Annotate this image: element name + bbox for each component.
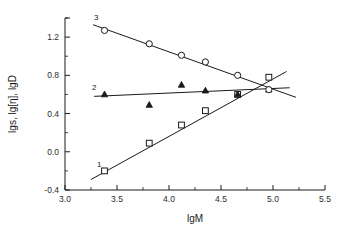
y-tick-label: 1.2: [47, 32, 59, 42]
data-point-square: [102, 168, 108, 174]
data-point-circle: [101, 27, 107, 33]
y-tick-label: 0.8: [47, 70, 59, 80]
data-point-circle: [178, 52, 184, 58]
data-point-triangle: [146, 102, 152, 108]
y-tick-label: 0.4: [47, 109, 59, 119]
data-point-circle: [146, 41, 152, 47]
curve-label-3: 3: [94, 13, 99, 22]
data-point-circle: [202, 59, 208, 65]
curve-label-2: 2: [92, 83, 97, 92]
data-point-triangle: [101, 91, 107, 97]
y-tick-label: -0.4: [44, 185, 59, 195]
data-point-circle: [235, 72, 241, 78]
data-point-circle: [266, 87, 272, 93]
fit-line-1: [91, 72, 287, 180]
curve-label-1: 1: [97, 160, 102, 169]
y-axis-title: lgs, lg[η], lgD: [7, 75, 18, 133]
scatter-plot: 3.03.54.04.55.05.5-0.40.00.40.81.2lgMlgs…: [0, 0, 345, 229]
fit-line-3: [93, 25, 296, 98]
y-tick-label: 0.0: [47, 147, 59, 157]
fit-line-2: [94, 88, 290, 97]
x-tick-label: 5.0: [267, 194, 279, 204]
x-tick-label: 3.0: [59, 194, 71, 204]
figure-container: 3.03.54.04.55.05.5-0.40.00.40.81.2lgMlgs…: [0, 0, 345, 229]
data-point-square: [203, 108, 209, 114]
x-tick-label: 5.5: [319, 194, 331, 204]
x-axis-title: lgM: [187, 213, 203, 224]
x-tick-label: 3.5: [111, 194, 123, 204]
x-tick-label: 4.0: [163, 194, 175, 204]
data-point-square: [179, 122, 185, 128]
data-point-triangle: [178, 81, 184, 87]
data-point-square: [146, 140, 152, 146]
data-point-square: [266, 74, 272, 80]
data-point-triangle: [202, 87, 208, 93]
x-tick-label: 4.5: [215, 194, 227, 204]
